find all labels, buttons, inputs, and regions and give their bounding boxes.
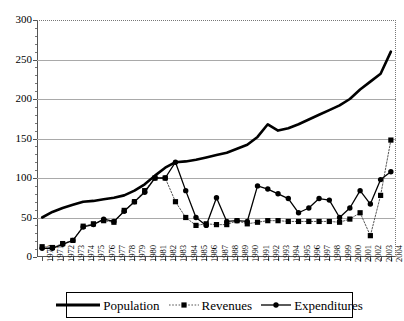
data-point: [368, 233, 373, 238]
data-point: [306, 219, 311, 224]
x-axis-tick-label: 1975: [97, 245, 106, 262]
x-axis-tick-label: 2003: [385, 245, 394, 262]
x-axis-tick-label: 1998: [333, 245, 342, 262]
data-point: [70, 238, 75, 243]
x-axis-tick-label: 1976: [108, 245, 117, 262]
data-point: [347, 205, 352, 210]
y-axis-tick-label: 0: [0, 251, 32, 262]
data-point: [327, 219, 332, 224]
x-axis-tick-label: 1972: [67, 245, 76, 262]
data-point: [388, 137, 393, 142]
legend-swatch: [56, 299, 100, 311]
data-point: [316, 196, 321, 201]
data-point: [193, 215, 198, 220]
data-point: [101, 216, 106, 221]
x-axis-tick-label: 1973: [77, 245, 86, 262]
data-point: [296, 219, 301, 224]
x-axis-tick-label: 1983: [179, 245, 188, 262]
legend-item-population[interactable]: Population: [56, 299, 159, 312]
x-axis-tick-label: 2002: [374, 245, 383, 262]
chart-container: 050100150200250300 197019711972197319741…: [0, 0, 404, 321]
data-point: [388, 169, 393, 174]
legend-label: Population: [103, 299, 159, 312]
legend-item-revenues[interactable]: Revenues: [169, 299, 253, 312]
data-point: [173, 160, 178, 165]
data-point: [173, 199, 178, 204]
x-axis-tick-label: 1990: [251, 245, 260, 262]
legend-label: Revenues: [202, 299, 253, 312]
y-axis-tick-label: 300: [0, 14, 32, 25]
series-line: [42, 52, 391, 218]
y-axis-tick-label: 150: [0, 133, 32, 144]
data-point: [152, 175, 157, 180]
x-axis-tick-label: 2004: [395, 245, 404, 262]
chart-legend: PopulationRevenuesExpenditures: [66, 292, 353, 318]
data-point: [80, 224, 85, 229]
data-point: [193, 223, 198, 228]
data-point: [183, 188, 188, 193]
data-point: [378, 177, 383, 182]
y-axis-tick-label: 250: [0, 54, 32, 65]
legend-item-expenditures[interactable]: Expenditures: [261, 299, 363, 312]
y-axis-tick-label: 100: [0, 172, 32, 183]
series-expenditures: [39, 160, 393, 252]
x-axis-tick-label: 1978: [128, 245, 137, 262]
data-point: [378, 193, 383, 198]
x-axis-tick-label: 2001: [364, 245, 373, 262]
x-axis-tick-label: 1997: [323, 245, 332, 262]
data-point: [275, 191, 280, 196]
data-point: [142, 190, 147, 195]
data-point: [337, 220, 342, 225]
x-axis-tick-label: 1971: [56, 245, 65, 262]
data-point: [224, 219, 229, 224]
data-point: [91, 222, 96, 227]
series-layer: [37, 20, 396, 257]
x-axis-tick-label: 1977: [118, 245, 127, 262]
x-axis-tick-label: 1991: [262, 245, 271, 262]
data-point: [316, 219, 321, 224]
x-axis-tick-label: 1996: [313, 245, 322, 262]
data-point: [132, 199, 137, 204]
x-axis-tick-label: 1981: [159, 245, 168, 262]
data-point: [234, 218, 239, 223]
x-axis-tick-label: 1993: [282, 245, 291, 262]
data-point: [255, 183, 260, 188]
x-axis-tick-label: 1995: [303, 245, 312, 262]
data-point: [275, 218, 280, 223]
data-point: [337, 215, 342, 220]
data-point: [265, 218, 270, 223]
x-axis-tick-label: 1985: [200, 245, 209, 262]
data-point: [347, 216, 352, 221]
data-point: [214, 195, 219, 200]
data-point: [265, 186, 270, 191]
data-point: [286, 219, 291, 224]
x-axis-tick-label: 1982: [169, 245, 178, 262]
x-axis-tick-label: 1970: [46, 245, 55, 262]
data-point: [358, 210, 363, 215]
x-axis-tick-label: 1988: [231, 245, 240, 262]
x-axis-tick-label: 1986: [210, 245, 219, 262]
y-axis-tick-label: 200: [0, 93, 32, 104]
x-axis-tick-label: 1984: [190, 245, 199, 262]
data-point: [111, 219, 116, 224]
data-point: [183, 215, 188, 220]
data-point: [121, 208, 126, 213]
data-point: [255, 220, 260, 225]
data-point: [163, 175, 168, 180]
data-point: [214, 222, 219, 227]
series-population: [42, 52, 391, 218]
x-axis-tick-label: 1994: [292, 245, 301, 262]
data-point: [327, 197, 332, 202]
data-point: [204, 223, 209, 228]
legend-swatch: [261, 299, 291, 311]
x-axis-tick-label: 1989: [241, 245, 250, 262]
data-point: [368, 201, 373, 206]
x-tick-mark: [42, 257, 43, 261]
data-point: [245, 219, 250, 224]
x-axis-tick-label: 1979: [138, 245, 147, 262]
x-axis-tick-label: 1974: [87, 245, 96, 262]
x-axis-tick-label: 2000: [354, 245, 363, 262]
x-axis-tick-label: 1992: [272, 245, 281, 262]
data-point: [357, 188, 362, 193]
series-line: [42, 162, 391, 248]
